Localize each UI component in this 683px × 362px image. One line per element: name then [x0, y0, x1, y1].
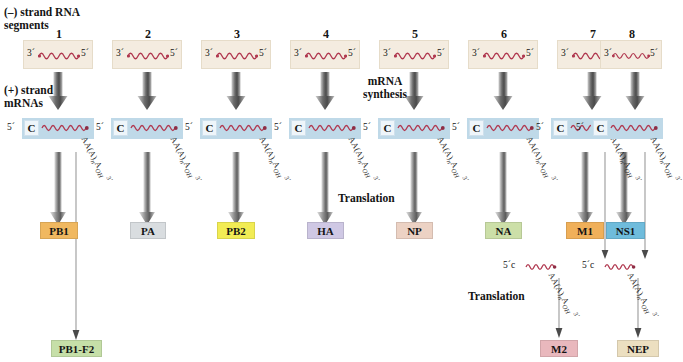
rna-strand-icon	[483, 50, 525, 61]
segment-number: 3	[202, 27, 272, 42]
spliced-mrna-7[interactable]: 5´c AA(A)nAOH 3´	[503, 258, 563, 276]
mrna-5[interactable]: 5´ C AA(A)nAOH 3´	[378, 118, 450, 139]
rna-strand-icon	[604, 261, 636, 272]
mrna-5prime: 5´	[185, 122, 193, 132]
segment-5prime: 5´	[259, 48, 267, 58]
mrna-6[interactable]: 5´ C AA(A)nAOH 3´	[467, 118, 539, 139]
mrna-5prime: 5´	[452, 122, 460, 132]
vrna-segment-3[interactable]: 3 3´ 5´	[201, 40, 271, 69]
cap-structure: C	[202, 120, 217, 136]
segment-3prime: 3´	[294, 48, 302, 58]
cap-structure: C	[380, 120, 395, 136]
vrna-segment-4[interactable]: 4 3´ 5´	[290, 40, 360, 69]
segment-3prime: 3´	[472, 48, 480, 58]
segment-5prime: 5´	[348, 48, 356, 58]
rna-strand-icon	[127, 50, 169, 61]
protein-box-m1[interactable]: M1	[566, 222, 604, 239]
rna-strand-icon	[394, 50, 436, 61]
cap-structure: C	[113, 120, 128, 136]
vrna-segment-5[interactable]: 5 3´ 5´	[379, 40, 449, 69]
protein-box-pb1[interactable]: PB1	[40, 222, 78, 239]
protein-box-ns1[interactable]: NS1	[606, 222, 645, 239]
mrna-5prime: 5´	[363, 122, 371, 132]
segment-3prime: 3´	[604, 48, 612, 58]
rna-strand-icon	[486, 122, 534, 134]
mrna-5prime: 5´	[536, 122, 544, 132]
cap-structure: C	[469, 120, 484, 136]
cap-structure: C	[593, 120, 608, 136]
mrna-4[interactable]: 5´ C AA(A)nAOH 3´	[289, 118, 361, 139]
rna-strand-icon	[308, 122, 356, 134]
segment-3prime: 3´	[205, 48, 213, 58]
rna-strand-icon	[610, 122, 658, 134]
spliced-mrna-5prime-cap: 5´c	[503, 260, 515, 270]
mrna-2[interactable]: 5´ C AA(A)nAOH 3´	[111, 118, 183, 139]
spliced-mrna-8[interactable]: 5´c AA(A)nAOH 3´	[582, 258, 642, 276]
protein-box-m2[interactable]: M2	[540, 340, 578, 357]
protein-box-pa[interactable]: PA	[130, 222, 166, 239]
segment-number: 5	[380, 27, 450, 42]
segment-number: 2	[113, 27, 183, 42]
vrna-segment-2[interactable]: 2 3´ 5´	[112, 40, 182, 69]
segment-5prime: 5´	[650, 48, 658, 58]
vrna-segment-8[interactable]: 8 3´ 5´	[600, 40, 662, 69]
rna-strand-icon	[525, 261, 557, 272]
segment-5prime: 5´	[437, 48, 445, 58]
rna-strand-icon	[397, 122, 445, 134]
protein-box-np[interactable]: NP	[396, 222, 433, 239]
mrna-caption: (+) strand mRNAs	[4, 84, 53, 110]
rna-strand-icon	[41, 122, 89, 134]
segment-number: 6	[469, 27, 539, 42]
rna-strand-icon	[216, 50, 258, 61]
segment-5prime: 5´	[526, 48, 534, 58]
protein-box-nep[interactable]: NEP	[617, 340, 659, 357]
segment-5prime: 5´	[81, 48, 89, 58]
vrna-segment-6[interactable]: 6 3´ 5´	[468, 40, 538, 69]
mrna-5prime: 5´	[576, 122, 584, 132]
splice-lines	[73, 152, 649, 340]
rna-strand-icon	[130, 122, 178, 134]
cap-structure: C	[24, 120, 39, 136]
mrna-synthesis-label: mRNA synthesis	[350, 75, 420, 101]
protein-box-ha[interactable]: HA	[307, 222, 344, 239]
vrna-segment-1[interactable]: 1 3´ 5´	[23, 40, 93, 69]
mrna-8[interactable]: 5´ C AA(A)nAOH 3´	[591, 118, 663, 139]
segment-number: 8	[601, 27, 663, 42]
spliced-mrna-5prime-cap: 5´c	[582, 260, 594, 270]
segment-3prime: 3´	[116, 48, 124, 58]
segment-3prime: 3´	[383, 48, 391, 58]
translation-label-2: Translation	[468, 290, 525, 303]
segment-number: 4	[291, 27, 361, 42]
cap-structure: C	[291, 120, 306, 136]
mrna-3[interactable]: 5´ C AA(A)nAOH 3´	[200, 118, 272, 139]
cap-structure: C	[553, 120, 568, 136]
transcription-arrows	[49, 72, 645, 110]
protein-box-na[interactable]: NA	[485, 222, 522, 239]
segment-number: 1	[24, 27, 94, 42]
segment-5prime: 5´	[170, 48, 178, 58]
segment-3prime: 3´	[27, 48, 35, 58]
mrna-1[interactable]: 5´ C AA(A)nAOH 3´	[22, 118, 94, 139]
protein-box-pb1-f2[interactable]: PB1-F2	[51, 340, 102, 357]
protein-box-pb2[interactable]: PB2	[217, 222, 255, 239]
mrna-5prime: 5´	[96, 122, 104, 132]
translation-label: Translation	[338, 192, 395, 205]
rna-strand-icon	[305, 50, 347, 61]
mrna-5prime: 5´	[274, 122, 282, 132]
rna-strand-icon	[612, 50, 650, 61]
rna-strand-icon	[219, 122, 267, 134]
mrna-5prime: 5´	[7, 122, 15, 132]
rna-strand-icon	[38, 50, 80, 61]
segment-3prime: 3´	[561, 48, 569, 58]
